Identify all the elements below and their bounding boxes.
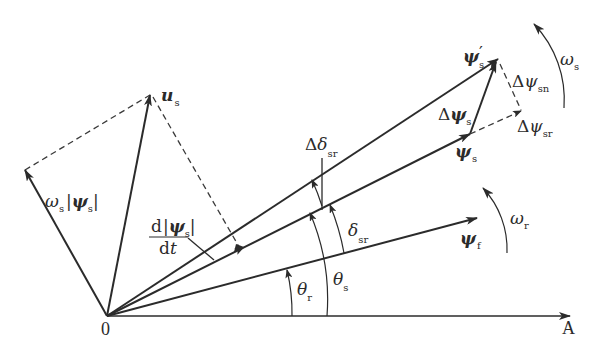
omega-r-rotation-arc: [483, 188, 507, 253]
theta-r-label: θr: [297, 279, 312, 303]
us-vector: [107, 95, 150, 316]
delta-sr-arc: [330, 205, 344, 253]
delta-delta-sr-label: Δδsr: [305, 134, 338, 159]
delta-delta-sr-arc: [312, 180, 322, 206]
origin-label: 0: [101, 319, 110, 339]
psi-s-label: ψs: [455, 141, 477, 164]
delta-psi-s-label: Δψs: [438, 104, 471, 127]
flux-vector-diagram: 0 A us ωs|ψs| d|ψs| dt ψ′s Δψs ψs Δψsn Δ…: [0, 0, 595, 352]
psi-f-label: ψf: [460, 228, 482, 251]
theta-s-arc: [310, 213, 328, 316]
theta-s-label: θs: [333, 269, 348, 293]
delta-psi-s-vector: [470, 62, 496, 134]
delta-sr-label: δsr: [348, 220, 368, 245]
psi-s-prime-label: ψ′s: [463, 42, 484, 70]
delta-psi-sr-label: Δψsr: [517, 116, 553, 139]
dpsi-dt-denominator: dt: [159, 238, 177, 258]
delta-psi-sn-label: Δψsn: [512, 71, 550, 94]
theta-r-arc: [287, 270, 292, 316]
dpsi-dt-numerator: d|ψs|: [151, 216, 196, 239]
omega-psi-label: ωs|ψs|: [45, 191, 99, 214]
dpsi-dt-arrow: [107, 248, 243, 316]
us-label: us: [161, 85, 180, 108]
dash-omega-to-us: [25, 95, 150, 170]
omega-s-label: ωs: [560, 49, 579, 72]
axis-a-label: A: [562, 318, 575, 338]
omega-r-label: ωr: [510, 208, 529, 231]
